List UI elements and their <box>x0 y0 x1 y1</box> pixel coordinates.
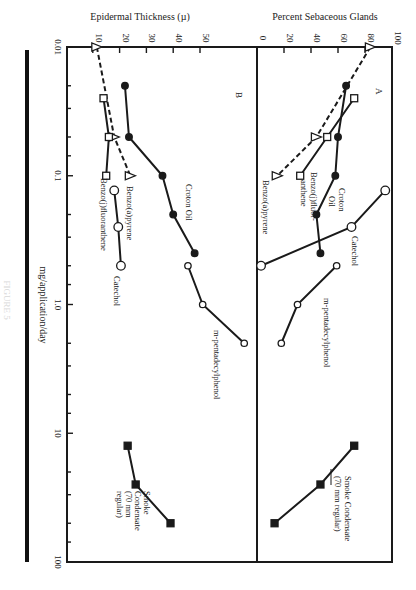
data-point-marker <box>122 82 129 89</box>
label-a-catechol: Catechol <box>350 236 360 267</box>
label-b-smoke-4: regular) <box>115 491 125 518</box>
panel-b-tick-label: 10 <box>94 34 104 44</box>
data-point-marker <box>351 442 358 449</box>
label-b-catechol: Catechol <box>112 276 122 307</box>
data-point-marker <box>347 223 356 232</box>
panel-a-value-ticks: 020406080100 <box>257 31 403 53</box>
data-point-marker <box>185 263 191 269</box>
data-point-marker <box>199 301 205 307</box>
data-point-marker <box>159 172 166 179</box>
data-point-marker <box>125 172 135 180</box>
data-point-marker <box>132 481 139 488</box>
data-point-marker <box>381 186 390 195</box>
series-lines <box>97 47 385 523</box>
data-point-marker <box>241 340 247 346</box>
dose-tick-label: 100 <box>53 555 63 569</box>
data-point-marker <box>343 82 350 89</box>
series-line <box>97 47 131 176</box>
panel-a-axis-title: Percent Sebaceous Glands <box>272 11 378 22</box>
data-point-marker <box>257 261 266 270</box>
data-point-marker <box>297 172 304 179</box>
data-point-marker <box>117 261 126 270</box>
series-line <box>277 47 370 176</box>
data-point-marker <box>110 186 119 195</box>
panel-b-letter: B <box>234 92 244 98</box>
data-point-marker <box>317 250 324 257</box>
dose-axis-ticks: 0.010.11.010100 <box>53 39 73 569</box>
label-b-benzo-j-fluor: Benzo(j)fluoranthene <box>99 178 109 251</box>
label-a-mpdp: m-pentadecylphenol <box>322 298 332 368</box>
data-point-marker <box>167 520 174 527</box>
data-point-marker <box>335 134 342 141</box>
panel-b-tick-label: 20 <box>121 34 131 44</box>
label-a-croton-1: Croton <box>337 188 347 212</box>
label-b-benzo-a-pyrene: Benzo(a)pyrene <box>125 186 135 241</box>
label-b-croton: Croton Oil <box>184 184 194 221</box>
data-point-marker <box>105 133 112 140</box>
panel-a-letter: A <box>374 88 384 95</box>
data-point-marker <box>294 301 300 307</box>
series-markers <box>92 43 390 527</box>
panel-b-tick-label: 40 <box>174 34 184 44</box>
data-point-marker <box>324 133 331 140</box>
panel-a-tick-label: 0 <box>258 36 268 41</box>
data-point-marker <box>317 481 324 488</box>
panel-a-tick-label: 80 <box>366 34 376 44</box>
data-point-marker <box>100 95 107 102</box>
dose-tick-label: 10 <box>53 429 63 439</box>
label-a-smoke-1: Smoke Condensate <box>343 476 353 542</box>
dose-tick-label: 1.0 <box>53 299 63 311</box>
panel-b-tick-label: 50 <box>201 34 211 44</box>
data-point-marker <box>365 43 375 51</box>
data-point-marker <box>332 172 339 179</box>
data-point-marker <box>114 223 123 232</box>
dose-tick-label: 0.01 <box>53 39 63 55</box>
data-point-marker <box>271 520 278 527</box>
panel-b-tick-label: 30 <box>147 34 157 44</box>
data-point-marker <box>311 133 321 141</box>
figure-caption: FIGURE 5 <box>2 280 12 320</box>
dose-response-chart: 0.010.11.010100 020406080100 1020304050 … <box>0 0 416 590</box>
panel-a-tick-label: 60 <box>339 34 349 44</box>
data-point-marker <box>351 95 358 102</box>
label-a-benzo-j-fluor-2: anthene <box>299 180 309 207</box>
label-a-smoke-2: (70 mm regular) <box>333 476 343 532</box>
data-point-marker <box>278 340 284 346</box>
label-b-mpdp: m-pentadecylphenol <box>212 330 222 400</box>
data-point-marker <box>126 134 133 141</box>
label-a-benzo-j-fluor-1: Benzo(j)fluor- <box>309 172 319 221</box>
data-point-marker <box>191 250 198 257</box>
dose-axis-title: mg/application/day <box>38 266 49 343</box>
panel-a-tick-label: 40 <box>312 34 322 44</box>
label-a-croton-2: Oil <box>327 196 337 208</box>
data-point-marker <box>333 263 339 269</box>
data-point-marker <box>170 211 177 218</box>
dose-tick-label: 0.1 <box>53 170 63 181</box>
label-a-benzo-a-pyrene: Benzo(a)pyrene <box>261 180 271 235</box>
panel-b-value-ticks: 1020304050 <box>93 34 211 54</box>
data-point-marker <box>124 442 131 449</box>
panel-b-axis-title: Epidermal Thickness (µ) <box>90 11 189 23</box>
panel-a-tick-label: 100 <box>393 31 403 45</box>
panel-a-tick-label: 20 <box>285 34 295 44</box>
